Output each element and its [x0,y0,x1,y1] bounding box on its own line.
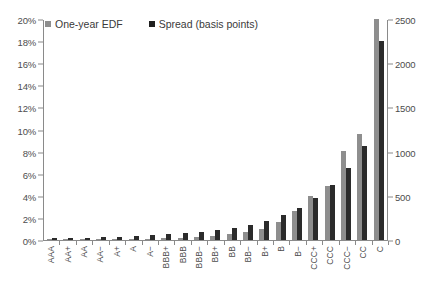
bar-group [77,20,93,240]
bar-spread [68,238,73,240]
x-axis-label: B− [289,246,305,286]
x-axis-label-text: AAA [46,246,56,263]
x-axis-tick-mark [207,241,208,245]
x-axis-label-text: B+ [260,246,270,257]
x-axis-tick-mark [273,241,274,245]
bar-spread [215,230,220,240]
x-axis-label-text: A+ [112,246,122,257]
bar-group [207,20,223,240]
x-axis-tick-mark [158,241,159,245]
right-axis-tick-label: 1500 [395,103,415,114]
x-axis-label-text: AA+ [63,246,73,263]
x-axis-label: C [371,246,387,286]
bar-group [338,20,354,240]
bar-group [371,20,387,240]
x-axis-tick-mark [289,241,290,245]
x-axis-tick-mark [125,241,126,245]
x-axis-label-text: BB− [243,246,253,263]
x-axis-label-text: CC [358,246,368,258]
x-axis-tick-mark [257,241,258,245]
bar-group [60,20,76,240]
bar-group [109,20,125,240]
bar-group [44,20,60,240]
x-axis-tick-mark [240,241,241,245]
x-axis-label: BBB [174,246,190,286]
x-axis-tick-mark [372,241,373,245]
x-axis-label: CCC [322,246,338,286]
x-axis-label: AA− [92,246,108,286]
right-axis-tick-mark [388,196,393,197]
dual-axis-bar-chart: One-year EDF Spread (basis points) 0%2%4… [0,0,427,286]
bar-spread [297,208,302,240]
x-axis-label: BBB− [191,246,207,286]
right-axis-tick-mark [388,152,393,153]
right-axis-tick-mark [388,64,393,65]
bar-spread [232,228,237,240]
x-axis-label: AA [76,246,92,286]
x-axis-label-text: B− [293,246,303,257]
bar-group [224,20,240,240]
left-axis-tick-label: 10% [18,125,36,136]
x-axis-tick-mark [59,241,60,245]
left-axis-tick-label: 6% [23,169,36,180]
bar-group [273,20,289,240]
bar-spread [248,225,253,240]
bar-group [305,20,321,240]
x-axis-label: BB+ [207,246,223,286]
x-axis-label-text: CCC+ [309,246,319,270]
x-axis-tick-mark [355,241,356,245]
left-axis-tick-label: 12% [18,103,36,114]
bar-spread [117,237,122,240]
x-axis-tick-mark [306,241,307,245]
x-axis-tick-mark [76,241,77,245]
x-axis-label: CCC+ [306,246,322,286]
x-axis-label: B+ [256,246,272,286]
left-axis-tick-label: 0% [23,236,36,247]
x-axis-label-text: CCC [325,246,335,265]
bar-spread [101,237,106,240]
x-axis-label-text: BBB+ [161,246,171,268]
x-axis-label: BB [224,246,240,286]
bar-spread [264,221,269,240]
left-axis-tick-label: 18% [18,37,36,48]
x-axis-label-text: BBB− [194,246,204,268]
bar-group [126,20,142,240]
right-axis-tick-label: 1000 [395,147,415,158]
bar-group [354,20,370,240]
right-axis-tick-label: 500 [395,191,410,202]
x-axis-labels: AAAAA+AAAA−A+AA−BBB+BBBBBB−BB+BBBB−B+BB−… [43,246,388,286]
bar-group [158,20,174,240]
right-axis-tick-label: 2500 [395,15,415,26]
x-axis-tick-mark [142,241,143,245]
right-axis-tick-mark [388,20,393,21]
left-axis-tick-label: 20% [18,15,36,26]
right-axis-tick-label: 0 [395,236,400,247]
x-axis-label: A− [142,246,158,286]
x-axis-tick-mark [191,241,192,245]
right-axis-tick-mark [388,108,393,109]
bar-spread [150,235,155,240]
x-axis-tick-mark [339,241,340,245]
x-axis-tick-mark [109,241,110,245]
x-axis-label-text: AA− [95,246,105,263]
bar-group [93,20,109,240]
x-axis-label: B [273,246,289,286]
x-axis-tick-mark [174,241,175,245]
bar-group [191,20,207,240]
bar-spread [313,198,318,240]
x-axis-label-text: BB [227,246,237,258]
plot-area [43,20,388,241]
left-axis-tick-label: 2% [23,213,36,224]
left-axis-tick-label: 14% [18,81,36,92]
right-axis-tick-label: 2000 [395,59,415,70]
x-axis-label-text: B [276,246,286,252]
bar-group [289,20,305,240]
x-axis-tick-mark [388,241,389,245]
x-axis-label-text: CCC− [342,246,352,270]
left-axis-tick-label: 16% [18,59,36,70]
x-axis-label-text: C [375,246,385,252]
bar-spread [346,168,351,240]
x-axis-label-text: BBB [178,246,188,263]
bar-spread [134,236,139,240]
x-axis-label: A+ [109,246,125,286]
